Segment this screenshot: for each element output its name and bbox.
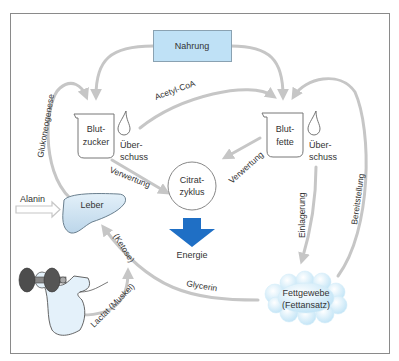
blutzucker-label-2: zucker (83, 137, 110, 147)
citratzyklus-label-2: zyklus (179, 187, 205, 197)
node-blutzucker: Blut- zucker (74, 114, 114, 158)
label-einlagerung: Einlagerung (297, 192, 307, 238)
citratzyklus-label-1: Citrat- (180, 175, 205, 185)
blutzucker-label-1: Blut- (87, 124, 106, 134)
leber-label: Leber (80, 200, 103, 210)
node-nahrung: Nahrung (154, 31, 232, 62)
fettgewebe-label-1: Fettgewebe (282, 288, 329, 298)
metabolism-diagram: Nahrung Blut- zucker Über- schuss Blut- … (0, 0, 399, 361)
ueberschuss-right-1: Über- (309, 140, 332, 150)
fettgewebe-label-2: (Fettansatz) (282, 300, 330, 310)
energie-label: Energie (176, 250, 207, 260)
blutfette-label-1: Blut- (276, 124, 295, 134)
beaker-icon (74, 114, 114, 158)
node-blutfette: Blut- fette (262, 113, 303, 157)
ueberschuss-left-2: schuss (120, 152, 149, 162)
beaker-icon (262, 113, 303, 157)
node-citratzyklus: Citrat- zyklus (168, 162, 216, 210)
ueberschuss-left-1: Über- (120, 140, 143, 150)
nahrung-label: Nahrung (175, 41, 210, 51)
ueberschuss-right-2: schuss (309, 152, 338, 162)
label-alanin: Alanin (20, 194, 45, 204)
blutfette-label-2: fette (276, 137, 294, 147)
